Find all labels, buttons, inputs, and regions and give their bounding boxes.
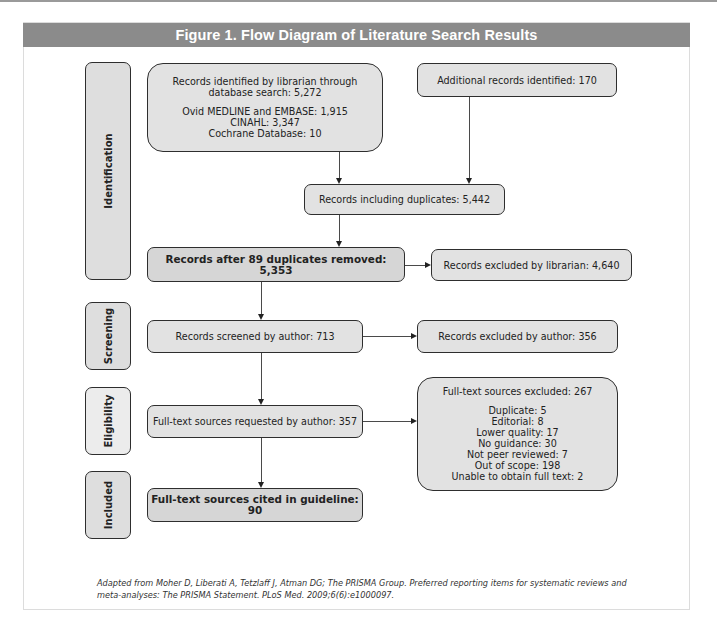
cited-text: Full-text sources cited in guideline: 90 (148, 494, 362, 516)
phase-label: Screening (103, 308, 114, 364)
source-item: CINAHL: 3,347 (182, 117, 348, 128)
excluded-librarian-box: Records excluded by librarian: 4,640 (431, 249, 632, 281)
arrow-down-icon (466, 178, 472, 184)
reason-item: Duplicate: 5 (452, 405, 584, 416)
connector-additional-to-duplicates (469, 97, 470, 178)
reason-item: Out of scope: 198 (452, 460, 584, 471)
excluded-librarian-text: Records excluded by librarian: 4,640 (444, 260, 620, 271)
phase-label: Included (103, 481, 114, 529)
source-citation: Adapted from Moher D, Liberati A, Tetzla… (97, 578, 657, 601)
excluded-author-text: Records excluded by author: 356 (438, 331, 596, 342)
fulltext-excluded-box: Full-text sources excluded: 267 Duplicat… (417, 377, 618, 491)
connector-librarian-to-duplicates (339, 152, 340, 178)
including-duplicates-box: Records including duplicates: 5,442 (304, 184, 505, 215)
source-item: Cochrane Database: 10 (182, 128, 348, 139)
excluded-author-box: Records excluded by author: 356 (417, 320, 618, 353)
connector-screened-to-requested (261, 353, 262, 399)
exclusion-reasons: Duplicate: 5 Editorial: 8 Lower quality:… (452, 405, 584, 482)
connector-requested-to-excluded (363, 421, 411, 422)
librarian-search-box: Records identified by librarian through … (147, 63, 383, 152)
requested-text: Full-text sources requested by author: 3… (153, 416, 357, 427)
additional-records-box: Additional records identified: 170 (417, 63, 617, 97)
citation-line2: meta-analyses: The PRISMA Statement. PLo… (97, 590, 657, 602)
screened-box: Records screened by author: 713 (147, 320, 363, 353)
database-sources: Ovid MEDLINE and EMBASE: 1,915 CINAHL: 3… (182, 106, 348, 139)
requested-box: Full-text sources requested by author: 3… (147, 405, 363, 438)
connector-screened-to-excluded (363, 336, 411, 337)
cited-box: Full-text sources cited in guideline: 90 (147, 488, 363, 522)
phase-label: Eligibility (103, 394, 114, 447)
arrow-down-icon (258, 482, 264, 488)
phase-label: Identification (103, 133, 114, 208)
reason-item: Not peer reviewed: 7 (452, 449, 584, 460)
after-duplicates-text: Records after 89 duplicates removed: 5,3… (148, 254, 404, 276)
additional-records-text: Additional records identified: 170 (437, 75, 597, 86)
connector-after-to-excluded (405, 265, 425, 266)
reason-item: Unable to obtain full text: 2 (452, 471, 584, 482)
figure-title: Figure 1. Flow Diagram of Literature Sea… (23, 23, 690, 47)
phase-eligibility: Eligibility (85, 387, 131, 455)
phase-identification: Identification (85, 62, 131, 280)
arrow-right-icon (411, 333, 417, 339)
connector-duplicates-to-after (339, 215, 340, 241)
arrow-right-icon (411, 418, 417, 424)
arrow-down-icon (336, 178, 342, 184)
screened-text: Records screened by author: 713 (176, 331, 335, 342)
librarian-search-line1: Records identified by librarian through (173, 76, 358, 87)
arrow-down-icon (258, 399, 264, 405)
reason-item: Lower quality: 17 (452, 427, 584, 438)
including-duplicates-text: Records including duplicates: 5,442 (319, 194, 490, 205)
reason-item: Editorial: 8 (452, 416, 584, 427)
fulltext-excluded-title: Full-text sources excluded: 267 (443, 386, 593, 397)
connector-after-to-screened (261, 282, 262, 314)
top-divider (0, 0, 717, 2)
reason-item: No guidance: 30 (452, 438, 584, 449)
connector-requested-to-cited (261, 438, 262, 482)
arrow-right-icon (425, 262, 431, 268)
arrow-down-icon (336, 241, 342, 247)
phase-included: Included (85, 471, 131, 539)
arrow-down-icon (258, 314, 264, 320)
source-item: Ovid MEDLINE and EMBASE: 1,915 (182, 106, 348, 117)
phase-screening: Screening (85, 302, 131, 370)
citation-line1: Adapted from Moher D, Liberati A, Tetzla… (97, 578, 657, 590)
after-duplicates-box: Records after 89 duplicates removed: 5,3… (147, 247, 405, 282)
librarian-search-line2: database search: 5,272 (208, 87, 321, 98)
